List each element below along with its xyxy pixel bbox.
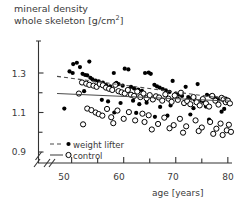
y-tick-label-2: 1.1 xyxy=(2,108,26,118)
x-axis-label: age [years] xyxy=(152,188,203,198)
figure-scatter-mineral-density: mineral density whole skeleton [g/cm2] 1… xyxy=(0,0,240,212)
x-tick-label-1: 50 xyxy=(52,172,76,182)
y-tick-label-3: 0.9 xyxy=(2,147,26,157)
x-tick-label-4: 80 xyxy=(216,172,240,182)
legend-label-control: control xyxy=(73,151,102,161)
x-tick-label-2: 60 xyxy=(107,172,131,182)
y-tick-label-1: 1.3 xyxy=(2,69,26,79)
legend-label-weight-lifter: weight lifter xyxy=(73,140,124,150)
x-tick-label-3: 70 xyxy=(161,172,185,182)
